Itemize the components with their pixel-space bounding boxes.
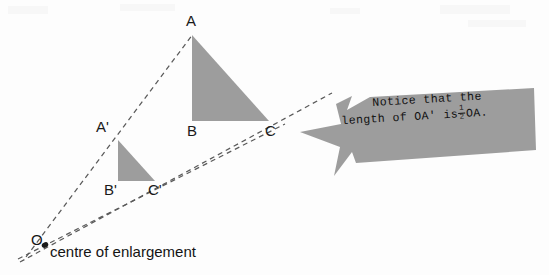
vertex-label-B-prime: B' bbox=[104, 181, 117, 198]
callout-bubble bbox=[300, 88, 536, 176]
ray-OA bbox=[26, 34, 193, 257]
vertex-label-A: A bbox=[186, 12, 196, 29]
origin-label: O bbox=[31, 231, 43, 248]
triangle-ABC bbox=[192, 35, 269, 121]
diagram-page: Notice that the length of OA' is12OA. A … bbox=[0, 0, 549, 275]
ray-OB bbox=[20, 93, 332, 262]
triangle-A-prime-B-prime-C-prime bbox=[118, 140, 155, 181]
vertex-label-C-prime: C' bbox=[148, 181, 162, 198]
vertex-label-A-prime: A' bbox=[96, 118, 109, 135]
vertex-label-C: C bbox=[265, 122, 276, 139]
centre-of-enlargement-caption: centre of enlargement bbox=[50, 243, 196, 260]
vertex-label-B: B bbox=[187, 122, 197, 139]
